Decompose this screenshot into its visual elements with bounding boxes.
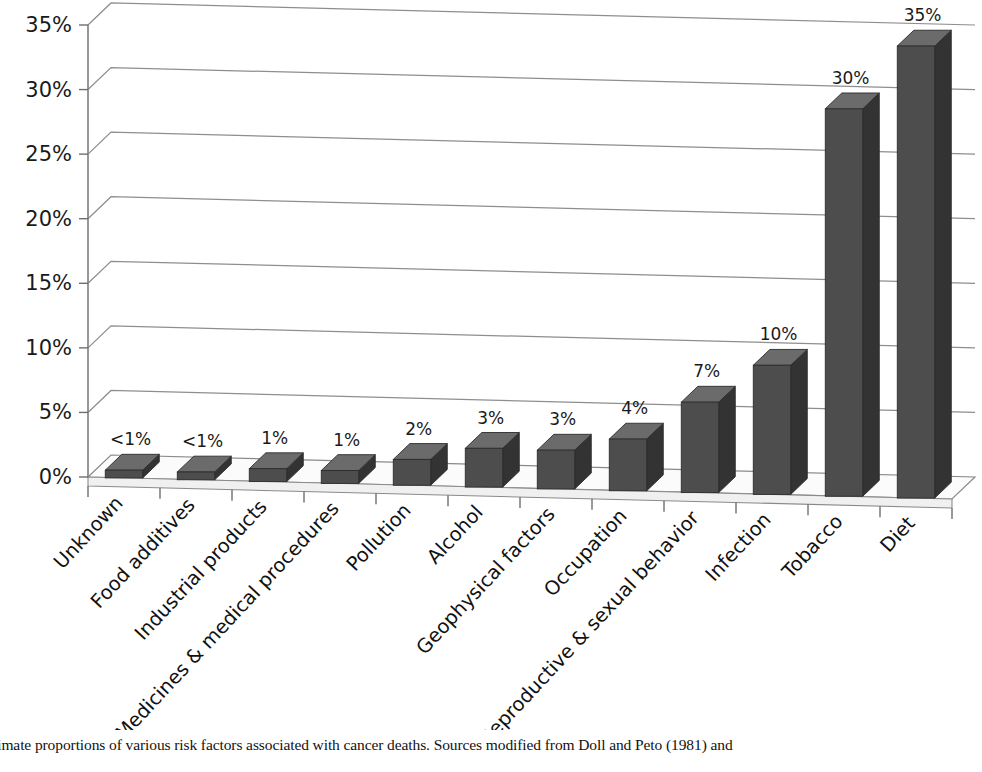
risk-factor-bar-chart: 0%5%10%15%20%25%30%35% <1%<1%1%1%2%3%3%4… [0,0,982,730]
bar-value-label: 30% [832,68,870,88]
bar-value-label: 2% [405,419,432,439]
bar-value-label: 10% [760,324,798,344]
bar-column [465,433,519,488]
y-axis-tick-label: 20% [25,207,72,231]
category-label: Tobacco [777,510,848,584]
bar-front-face [177,472,214,480]
bar-column [825,93,879,496]
bar-side-face [863,93,880,496]
bar-value-label: <1% [182,431,223,451]
bar-value-label: 1% [333,430,360,450]
bar-front-face [465,448,502,487]
bar-side-face [935,30,952,498]
bar-value-label: 4% [621,398,648,418]
bar-column [537,434,591,489]
category-label: Alcohol [422,501,487,569]
bar-front-face [825,109,862,496]
figure-container: 0%5%10%15%20%25%30%35% <1%<1%1%1%2%3%3%4… [0,0,982,772]
category-label: Infection [701,508,776,586]
bar-value-labels: <1%<1%1%1%2%3%3%4%7%10%30%35% [110,5,942,451]
bar-value-label: 3% [477,408,504,428]
gridline [88,3,975,25]
y-axis-tick-label: 0% [39,465,72,489]
bar-front-face [609,439,646,491]
y-axis-tick-label: 15% [25,271,72,295]
bar-column [609,423,663,490]
category-label: Industrial products [130,495,271,644]
bar-column [681,386,735,492]
category-label: Diet [876,512,920,557]
category-label: Pollution [342,499,416,576]
bar-value-label: 1% [261,428,288,448]
y-axis-tick-labels: 0%5%10%15%20%25%30%35% [25,13,72,489]
y-axis-tick-label: 30% [25,78,72,102]
y-axis-tick-label: 25% [25,142,72,166]
bar-value-label: 3% [549,409,576,429]
y-axis-tick-label: 10% [25,336,72,360]
y-axis-tick-label: 35% [25,13,72,37]
bar-front-face [753,365,790,494]
bar-value-label: 35% [904,5,942,25]
category-label: Unknown [49,492,128,574]
bar-value-label: 7% [693,361,720,381]
bar-front-face [249,469,286,482]
bar-front-face [537,450,574,489]
bar-front-face [681,402,718,492]
bar-column [897,30,951,498]
bar-column [753,349,807,494]
bar-front-face [105,470,142,478]
y-axis-tick-label: 5% [39,400,72,424]
bar-front-face [393,459,430,485]
bar-side-face [791,349,808,494]
bar-front-face [897,46,934,498]
category-axis-labels: UnknownFood additivesIndustrial products… [49,492,920,730]
category-label: Geophysical factors [412,503,560,659]
figure-caption: timate proportions of various risk facto… [0,736,982,754]
bar-side-face [719,386,736,492]
bar-front-face [321,471,358,484]
bar-value-label: <1% [110,429,151,449]
